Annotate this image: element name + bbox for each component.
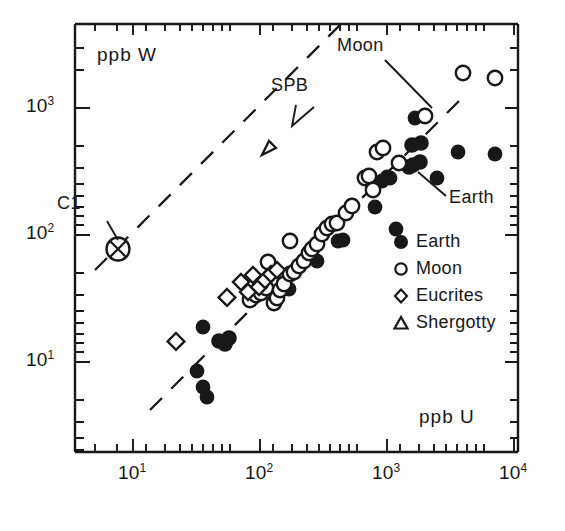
legend-label-shergotty: Shergotty [416,312,496,333]
series-shergotty [262,141,276,155]
legend-label-moon: Moon [416,258,462,279]
legend-label-earth: Earth [416,231,461,252]
legend-label-eucrites: Eucrites [416,285,483,306]
leader-c1 [107,221,118,240]
annotation-moon: Moon [337,35,384,56]
figure-root: 101 102 103 104 103 102 101 ppb W ppb U … [0,0,565,531]
x-axis-title: ppb U [419,406,475,428]
legend: Earth Moon Eucrites Shergotty [392,228,496,336]
x-tick-label-10e4: 104 [499,462,527,484]
marker-c1 [107,238,130,261]
annotation-spb: SPB [271,75,308,96]
leader-moon [385,60,432,108]
annotation-c1: C1 [57,193,81,214]
annotation-earth: Earth [449,187,494,208]
legend-item-shergotty: Shergotty [392,309,496,336]
y-tick-label-10e3: 103 [26,95,54,117]
leader-spb [292,105,314,126]
x-tick-label-10e3: 103 [372,462,400,484]
legend-item-eucrites: Eucrites [392,282,496,309]
filled-circle-icon [392,232,416,252]
legend-item-moon: Moon [392,255,496,282]
y-tick-label-10e1: 101 [26,349,54,371]
x-tick-label-10e2: 102 [245,462,273,484]
open-diamond-icon [392,286,416,306]
open-circle-icon [392,259,416,279]
y-tick-label-10e2: 102 [26,222,54,244]
x-tick-label-10e1: 101 [118,462,146,484]
open-triangle-icon [392,313,416,333]
y-axis-title: ppb W [97,44,157,66]
legend-item-earth: Earth [392,228,496,255]
